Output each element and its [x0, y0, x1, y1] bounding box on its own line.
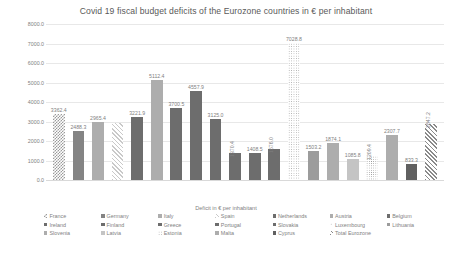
- legend-swatch-icon: [101, 231, 104, 234]
- bar-slot[interactable]: 3700.5: [167, 24, 187, 180]
- bar[interactable]: 7028.8: [288, 43, 300, 180]
- legend-label: Malta: [221, 230, 234, 236]
- bar-value-label: 3362.4: [51, 107, 67, 113]
- legend-item[interactable]: Cyprus: [273, 230, 330, 236]
- legend-swatch-icon: [158, 223, 161, 226]
- legend-swatch-icon: [330, 223, 333, 226]
- legend-swatch-icon: [44, 214, 47, 217]
- bar-series: 3362.42488.32965.43221.95112.43700.54557…: [46, 24, 444, 180]
- bar[interactable]: 2965.4: [92, 122, 104, 180]
- bar[interactable]: 2847.2: [425, 124, 437, 180]
- bar[interactable]: 1503.2: [308, 151, 320, 180]
- bar-slot[interactable]: 7028.8: [284, 24, 304, 180]
- legend-item[interactable]: Portugal: [215, 222, 272, 228]
- bar-slot[interactable]: 5112.4: [147, 24, 167, 180]
- legend-label: Latvia: [107, 230, 121, 236]
- bar[interactable]: 1576.0: [268, 149, 280, 180]
- bar-slot[interactable]: 833.3: [402, 24, 422, 180]
- bar-slot[interactable]: 2488.3: [69, 24, 89, 180]
- legend-item[interactable]: Spain: [215, 213, 272, 219]
- bar-slot[interactable]: 2847.2: [421, 24, 441, 180]
- bar-slot[interactable]: 4557.9: [186, 24, 206, 180]
- bar-slot[interactable]: 3362.4: [49, 24, 69, 180]
- legend-swatch-icon: [273, 231, 276, 234]
- bar-slot[interactable]: 2965.4: [88, 24, 108, 180]
- legend-item[interactable]: Estonia: [158, 230, 215, 236]
- bar[interactable]: 1085.8: [347, 159, 359, 180]
- bar-value-label: 1874.1: [325, 136, 341, 142]
- chart-card: Covid 19 fiscal budget deficits of the E…: [0, 0, 452, 266]
- bar-slot[interactable]: 1370.4: [225, 24, 245, 180]
- bar-value-label: 7028.8: [286, 36, 302, 42]
- legend-label: Luxembourg: [335, 222, 365, 228]
- legend-swatch-icon: [273, 214, 276, 217]
- bar[interactable]: 5112.4: [151, 80, 163, 180]
- bar[interactable]: 1370.4: [229, 153, 241, 180]
- bar-value-label: 5112.4: [149, 73, 164, 79]
- bar[interactable]: 833.3: [406, 164, 418, 180]
- legend-label: Slovakia: [278, 222, 298, 228]
- legend-row: FranceGermanyItalySpainNetherlandsAustri…: [44, 213, 444, 219]
- bar-slot[interactable]: 1576.0: [265, 24, 285, 180]
- legend-item[interactable]: Ireland: [44, 222, 101, 228]
- bar-slot[interactable]: 2307.7: [382, 24, 402, 180]
- bar-value-label: 833.3: [405, 157, 418, 163]
- legend-label: Total Eurozone: [335, 230, 371, 236]
- bar[interactable]: 3221.9: [131, 117, 143, 180]
- legend-item[interactable]: Slovakia: [273, 222, 330, 228]
- legend-row: IrelandFinlandGreecePortugalSlovakiaLuxe…: [44, 222, 444, 228]
- chart-legend: FranceGermanyItalySpainNetherlandsAustri…: [44, 213, 444, 239]
- legend-spacer: [387, 230, 444, 236]
- legend-swatch-icon: [101, 214, 104, 217]
- bar-value-label: 1209.4: [366, 144, 372, 160]
- bar-slot[interactable]: 3125.0: [206, 24, 226, 180]
- legend-item[interactable]: Germany: [101, 213, 158, 219]
- legend-item[interactable]: Latvia: [101, 230, 158, 236]
- bar-slot[interactable]: 1874.1: [323, 24, 343, 180]
- legend-label: Austria: [335, 213, 352, 219]
- legend-item[interactable]: Luxembourg: [330, 222, 387, 228]
- bar-value-label: 3221.9: [129, 110, 145, 116]
- y-axis-tick: 1000.0: [28, 158, 44, 164]
- bar-slot[interactable]: 1209.4: [363, 24, 383, 180]
- legend-label: Netherlands: [278, 213, 307, 219]
- y-axis: 0.01000.02000.03000.04000.05000.06000.07…: [14, 24, 44, 180]
- legend-item[interactable]: France: [44, 213, 101, 219]
- bar[interactable]: [112, 123, 124, 180]
- bar[interactable]: 3700.5: [170, 108, 182, 180]
- legend-swatch-icon: [215, 231, 218, 234]
- legend-item[interactable]: Lithuania: [387, 222, 444, 228]
- legend-swatch-icon: [158, 231, 161, 234]
- legend-label: Belgium: [392, 213, 411, 219]
- bar[interactable]: 4557.9: [190, 91, 202, 180]
- bar[interactable]: 1408.5: [249, 153, 261, 180]
- bar-slot[interactable]: [108, 24, 128, 180]
- bar[interactable]: 1209.4: [366, 156, 378, 180]
- legend-item[interactable]: Finland: [101, 222, 158, 228]
- legend-item[interactable]: Malta: [215, 230, 272, 236]
- legend-label: Cyprus: [278, 230, 295, 236]
- legend-swatch-icon: [273, 223, 276, 226]
- bar-value-label: 2307.7: [384, 128, 400, 134]
- bar[interactable]: 2307.7: [386, 135, 398, 180]
- legend-item[interactable]: Italy: [158, 213, 215, 219]
- bar-slot[interactable]: 1085.8: [343, 24, 363, 180]
- legend-item[interactable]: Netherlands: [273, 213, 330, 219]
- bar-value-label: 1370.4: [229, 141, 235, 157]
- bar[interactable]: 3125.0: [210, 119, 222, 180]
- legend-item[interactable]: Austria: [330, 213, 387, 219]
- legend-label: Finland: [107, 222, 125, 228]
- bar-value-label: 1576.0: [268, 137, 274, 153]
- bar[interactable]: 1874.1: [327, 143, 339, 180]
- legend-item[interactable]: Slovenia: [44, 230, 101, 236]
- bar[interactable]: 3362.4: [53, 114, 65, 180]
- legend-item[interactable]: Total Eurozone: [330, 230, 387, 236]
- legend-label: Greece: [164, 222, 182, 228]
- legend-label: Slovenia: [49, 230, 70, 236]
- bar[interactable]: 2488.3: [73, 131, 85, 180]
- bar-slot[interactable]: 1503.2: [304, 24, 324, 180]
- legend-item[interactable]: Greece: [158, 222, 215, 228]
- bar-slot[interactable]: 1408.5: [245, 24, 265, 180]
- legend-item[interactable]: Belgium: [387, 213, 444, 219]
- bar-slot[interactable]: 3221.9: [127, 24, 147, 180]
